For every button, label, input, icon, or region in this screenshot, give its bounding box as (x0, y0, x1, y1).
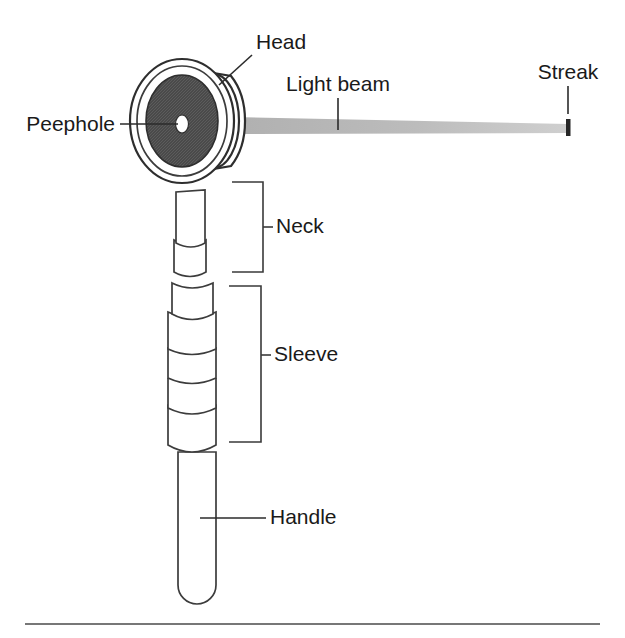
neck (174, 190, 206, 277)
light-beam (232, 117, 568, 134)
neck-tube (176, 190, 205, 247)
figure-root: Head Peephole Light beam Streak Neck Sle… (0, 0, 625, 638)
label-handle: Handle (270, 505, 337, 528)
instrument-diagram: Head Peephole Light beam Streak Neck Sle… (0, 0, 625, 638)
sleeve (168, 283, 216, 452)
label-light-beam: Light beam (286, 72, 390, 95)
streak-mark (566, 119, 571, 136)
label-head: Head (256, 30, 306, 53)
label-streak: Streak (538, 60, 599, 83)
label-neck: Neck (276, 214, 324, 237)
light-beam-wedge (232, 117, 568, 134)
label-peephole: Peephole (26, 112, 115, 135)
label-sleeve: Sleeve (274, 342, 338, 365)
brackets (229, 182, 273, 442)
neck-bracket (232, 182, 263, 272)
handle-body (178, 452, 216, 604)
handle (178, 452, 216, 604)
sleeve-bracket (229, 286, 261, 442)
text-labels: Head Peephole Light beam Streak Neck Sle… (26, 30, 599, 528)
streak (566, 119, 571, 136)
sleeve-section-upper (172, 283, 213, 320)
